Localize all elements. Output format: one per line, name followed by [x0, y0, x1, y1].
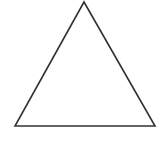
diagram-canvas — [0, 0, 163, 149]
triangle-figure — [0, 0, 163, 149]
triangle-outline — [15, 2, 155, 126]
caption-fragment — [28, 143, 158, 149]
